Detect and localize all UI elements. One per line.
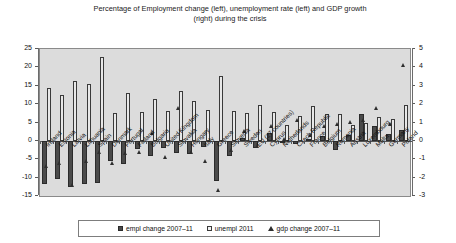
legend-item-gdp-change: gdp change 2007–11 [268,225,340,232]
axis-spine-left [38,48,39,195]
legend-label-empl-change: empl change 2007–11 [126,225,193,232]
legend-item-unempl: unempl 2011 [207,225,254,232]
legend-label-gdp-change: gdp change 2007–11 [277,225,340,232]
triangle-icon [268,226,274,231]
category-labels: IrelandEstoniaLatviaLithuaniaSpainDenmar… [0,0,456,243]
open-square-icon [207,226,212,231]
legend-item-empl-change: empl change 2007–11 [118,225,193,232]
chart-legend: empl change 2007–11 unempl 2011 gdp chan… [78,220,380,237]
filled-square-icon [118,226,123,231]
chart-figure: Percentage of Employment change (left), … [0,0,456,243]
axis-spine-right [412,48,413,195]
legend-label-unempl: unempl 2011 [215,225,254,232]
